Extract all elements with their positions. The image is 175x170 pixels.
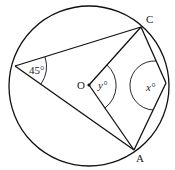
center-point [87,83,90,86]
angle-label-45: 45° [29,65,44,76]
chord-a-right [134,83,166,150]
label-c: C [146,14,153,25]
angle-label-y: y° [98,80,107,91]
chord-left-a [15,66,134,150]
label-o: O [77,80,85,91]
chord-left-c [15,27,141,66]
radius-oa [89,85,134,150]
angle-label-x: x° [146,82,155,93]
label-a: A [136,153,144,164]
